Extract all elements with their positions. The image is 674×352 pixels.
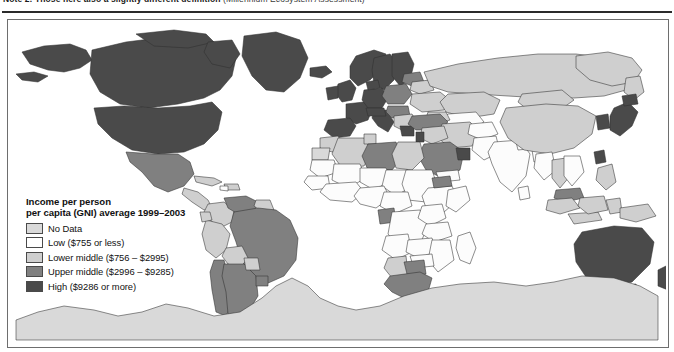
legend-title: Income per person per capita (GNI) avera…: [26, 196, 244, 219]
region-denmark: [366, 80, 380, 90]
legend-item-lower-middle[interactable]: Lower middle ($756 – $2995): [26, 251, 244, 264]
region-ireland: [326, 86, 338, 100]
region-eritrea-djibouti: [432, 176, 452, 188]
legend-label-upper-middle: Upper middle ($2996 – $9285): [48, 266, 174, 277]
legend-swatch-low: [26, 237, 43, 248]
world-map-frame: .ln{stroke:#2f2f2f;stroke-width:0.55;str…: [7, 19, 669, 348]
legend-title-line2: per capita (GNI) average 1999–2003: [26, 207, 244, 218]
region-austria-switzerland: [366, 108, 386, 116]
region-uruguay: [256, 276, 268, 286]
region-tunisia: [364, 134, 376, 144]
map-legend: Income per person per capita (GNI) avera…: [26, 196, 244, 294]
legend-label-high: High ($9286 or more): [48, 281, 136, 292]
legend-label-lower-middle: Lower middle ($756 – $2995): [48, 252, 169, 263]
legend-swatch-no-data: [26, 223, 43, 234]
region-taiwan: [594, 150, 606, 164]
caption-main: Note 2: Those here also a slightly diffe…: [3, 0, 221, 4]
region-western-sahara: [312, 148, 330, 160]
figure-caption: Note 2: Those here also a slightly diffe…: [3, 0, 365, 4]
figure-caption-strip: Note 2: Those here also a slightly diffe…: [0, 0, 674, 9]
region-sri-lanka: [518, 186, 530, 200]
region-paraguay: [244, 258, 260, 270]
caption-source: (Millennium Ecosystem Assessment): [223, 0, 365, 4]
world-map-svg: .ln{stroke:#2f2f2f;stroke-width:0.55;str…: [8, 20, 666, 345]
legend-swatch-lower-middle: [26, 252, 43, 263]
region-greece: [400, 126, 414, 136]
region-gulf-states: [456, 148, 470, 160]
region-hokkaido: [622, 94, 638, 106]
legend-item-upper-middle[interactable]: Upper middle ($2996 – $9285): [26, 265, 244, 278]
legend-swatch-upper-middle: [26, 266, 43, 277]
legend-label-no-data: No Data: [48, 223, 82, 234]
legend-swatch-high: [26, 281, 43, 292]
figure-root: Note 2: Those here also a slightly diffe…: [0, 0, 674, 352]
legend-label-low: Low ($755 or less): [48, 237, 124, 248]
horizontal-rule: [2, 11, 672, 13]
legend-item-low[interactable]: Low ($755 or less): [26, 236, 244, 249]
region-israel-lebanon: [416, 132, 424, 142]
world-map-canvas: .ln{stroke:#2f2f2f;stroke-width:0.55;str…: [8, 20, 666, 345]
legend-title-line1: Income per person: [26, 196, 244, 207]
legend-item-no-data[interactable]: No Data: [26, 222, 244, 235]
region-haiti-area: [220, 186, 228, 191]
legend-item-high[interactable]: High ($9286 or more): [26, 280, 244, 293]
region-north-south-korea: [596, 114, 610, 130]
